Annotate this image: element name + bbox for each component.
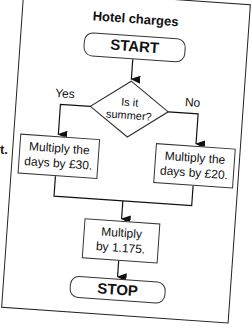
stray-text-fragment: t.	[0, 142, 8, 157]
flowchart-card: Hotel charges START Is it summer? Yes No…	[1, 0, 251, 324]
yes-label: Yes	[55, 86, 76, 101]
no-label: No	[184, 95, 200, 110]
no-process-box: Multiply the days by £20.	[153, 143, 236, 188]
decision-text: Is it summer?	[103, 94, 155, 123]
start-label: START	[110, 36, 160, 56]
final-process-box: Multiply by 1.175.	[82, 218, 161, 263]
yes-process-box: Multiply the days by £30.	[18, 134, 101, 179]
stop-label: STOP	[97, 279, 139, 299]
final-process-line-2: by 1.175.	[95, 239, 145, 257]
